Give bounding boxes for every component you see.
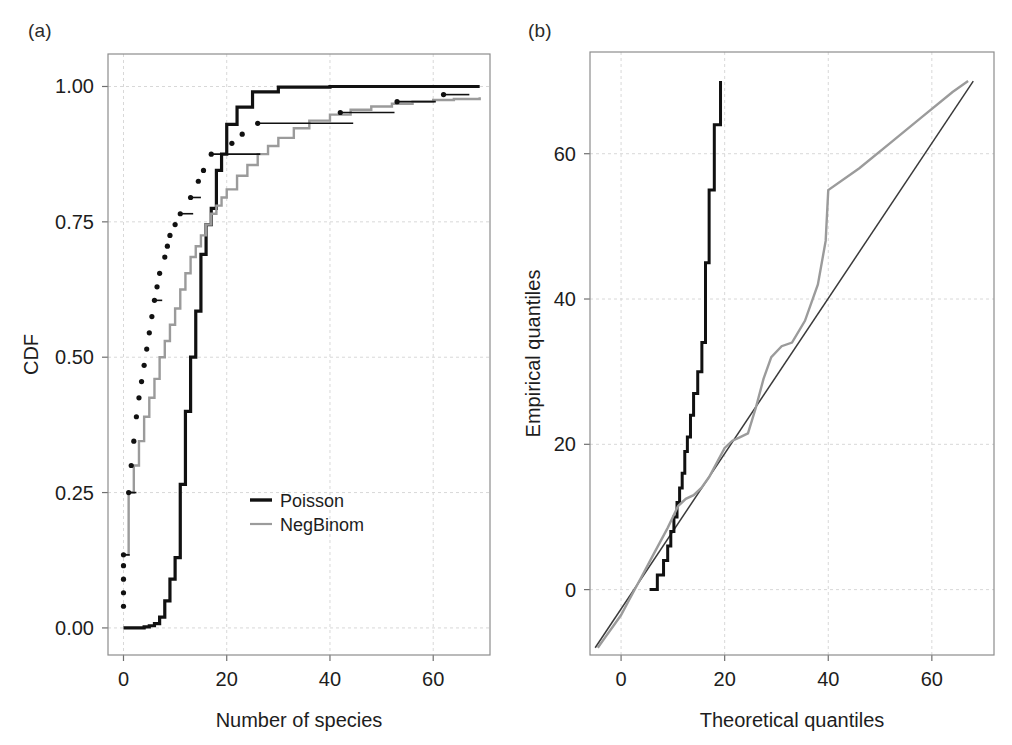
empirical-step-point (394, 99, 399, 104)
empirical-step-point (157, 271, 162, 276)
empirical-step-point (147, 330, 152, 335)
x-axis-title: Theoretical quantiles (700, 709, 885, 731)
legend: PoissonNegBinom (250, 491, 364, 535)
data-series (595, 81, 973, 648)
empirical-step-point (144, 346, 149, 351)
ytick-label: 0.75 (55, 211, 94, 233)
ytick-label: 1.00 (55, 75, 94, 97)
empirical-step-point (196, 179, 201, 184)
series-reference-line (595, 81, 973, 648)
xtick-label: 40 (319, 668, 341, 690)
y-axis-title: CDF (20, 334, 42, 375)
empirical-step-point (240, 132, 245, 137)
empirical-step-point (178, 211, 183, 216)
empirical-step-point (201, 168, 206, 173)
empirical-step-point (173, 222, 178, 227)
empirical-step-point (162, 254, 167, 259)
empirical-step-point (149, 314, 154, 319)
legend-label-negbinom: NegBinom (280, 515, 364, 535)
empirical-step-point (134, 414, 139, 419)
empirical-step-point (131, 439, 136, 444)
y-axis-title: Empirical quantiles (522, 270, 544, 438)
figure-container: (a) 02040600.000.250.500.751.00Number of… (0, 0, 1012, 745)
empirical-step-point (139, 379, 144, 384)
empirical-step-point (167, 233, 172, 238)
empirical-step-point (142, 363, 147, 368)
ytick-label: 40 (554, 288, 576, 310)
axis-labels: 02040600204060Theoretical quantilesEmpir… (522, 143, 943, 731)
empirical-step-point (121, 552, 126, 557)
legend-label-poisson: Poisson (280, 491, 344, 511)
ytick-label: 20 (554, 433, 576, 455)
panel-b-chart: 02040600204060Theoretical quantilesEmpir… (506, 0, 1012, 745)
ytick-label: 0.00 (55, 617, 94, 639)
ytick-label: 0 (565, 579, 576, 601)
empirical-step-point (121, 590, 126, 595)
empirical-step-point (121, 604, 126, 609)
empirical-step-point (188, 195, 193, 200)
xtick-label: 40 (817, 668, 839, 690)
xtick-label: 60 (422, 668, 444, 690)
empirical-step-point (126, 490, 131, 495)
empirical-step-point (152, 298, 157, 303)
xtick-label: 20 (216, 668, 238, 690)
ytick-label: 60 (554, 143, 576, 165)
panel-a-chart: 02040600.000.250.500.751.00Number of spe… (0, 0, 506, 745)
empirical-step-point (129, 463, 134, 468)
xtick-label: 60 (921, 668, 943, 690)
ytick-label: 0.50 (55, 346, 94, 368)
series-negbinom (123, 97, 479, 555)
empirical-step-point (121, 563, 126, 568)
empirical-step-point (165, 244, 170, 249)
xtick-label: 0 (118, 668, 129, 690)
panel-b: (b) 02040600204060Theoretical quantilesE… (506, 0, 1012, 745)
x-axis-title: Number of species (216, 709, 383, 731)
empirical-step-point (441, 92, 446, 97)
empirical-step-point (154, 284, 159, 289)
empirical-step-point (121, 577, 126, 582)
xtick-label: 20 (714, 668, 736, 690)
empirical-step-point (338, 110, 343, 115)
ytick-label: 0.25 (55, 482, 94, 504)
axis-labels: 02040600.000.250.500.751.00Number of spe… (20, 75, 444, 731)
empirical-step-point (136, 395, 141, 400)
panel-a: (a) 02040600.000.250.500.751.00Number of… (0, 0, 506, 745)
xtick-label: 0 (616, 668, 627, 690)
empirical-step-point (209, 152, 214, 157)
empirical-step-point (255, 121, 260, 126)
empirical-step-point (229, 141, 234, 146)
series-negbinom (598, 81, 968, 648)
